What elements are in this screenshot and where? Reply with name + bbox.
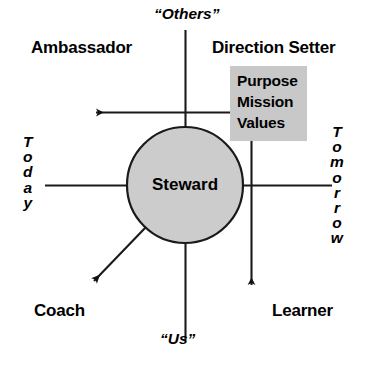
axis-label-today-letter: T xyxy=(23,134,32,149)
leadership-roles-diagram: Purpose Mission Values Steward Ambassado… xyxy=(0,0,372,374)
axis-label-today-letter: a xyxy=(23,180,32,195)
vision-line-purpose: Purpose xyxy=(230,70,307,91)
axis-label-today-letter: o xyxy=(23,149,32,164)
quadrant-label-coach: Coach xyxy=(34,301,85,321)
arrow-to-coach xyxy=(94,227,146,281)
axis-label-tomorrow-letter: o xyxy=(332,139,341,154)
steward-label: Steward xyxy=(125,175,245,195)
axis-label-today: T o d a y xyxy=(23,134,32,210)
axis-label-tomorrow-letter: r xyxy=(334,200,340,215)
axis-label-tomorrow-letter: w xyxy=(331,230,343,245)
axis-label-others: “Others” xyxy=(154,5,219,23)
axis-label-today-letter: y xyxy=(23,195,32,210)
axis-label-tomorrow-letter: m xyxy=(330,154,344,169)
quadrant-label-direction-setter: Direction Setter xyxy=(212,38,335,58)
quadrant-label-learner: Learner xyxy=(272,301,333,321)
axis-label-tomorrow: T o m o r r o w xyxy=(330,124,344,246)
axis-label-tomorrow-letter: T xyxy=(332,124,341,139)
vision-line-values: Values xyxy=(230,112,307,133)
quadrant-label-ambassador: Ambassador xyxy=(31,38,132,58)
axis-label-today-letter: d xyxy=(23,164,32,179)
vision-line-mission: Mission xyxy=(230,91,307,112)
axis-label-tomorrow-letter: r xyxy=(334,185,340,200)
axis-label-us: “Us” xyxy=(160,330,195,348)
axis-label-tomorrow-letter: o xyxy=(332,215,341,230)
vision-box: Purpose Mission Values xyxy=(230,66,307,141)
axis-label-tomorrow-letter: o xyxy=(332,170,341,185)
